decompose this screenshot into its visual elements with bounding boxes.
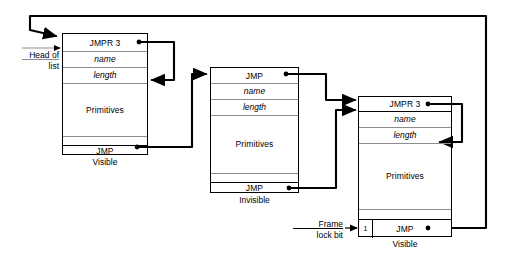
frame-2-jmp-cell[interactable]: JMP [211, 182, 298, 194]
frame-1-primitives-label: Primitives [86, 105, 124, 115]
frame-3[interactable]: JMPR 3 name length Primitives JMP 1 [358, 96, 452, 237]
frame-3-spacer-cell [359, 209, 451, 219]
frame-2-name-label: name [244, 86, 265, 96]
frame-3-primitives-label: Primitives [386, 171, 424, 181]
frame-2-length-cell[interactable]: length [211, 99, 298, 115]
frame-2-jmp-label: JMP [246, 183, 263, 193]
frame-lock-underline [293, 228, 343, 229]
frame-3-length-cell[interactable]: length [359, 127, 451, 143]
frame-3-caption: Visible [358, 239, 452, 249]
frame-3-length-label: length [393, 130, 416, 140]
head-of-list-label-line2: list [4, 61, 59, 71]
frame-3-name-cell[interactable]: name [359, 111, 451, 127]
frame-lock-bit-cell[interactable]: 1 [359, 219, 373, 238]
frame-1-name-label: name [94, 54, 115, 64]
frame-lock-label-line2: lock bit [290, 230, 343, 240]
frame-2[interactable]: JMP name length Primitives JMP [210, 67, 299, 193]
frame-3-jmp-label: JMP [396, 224, 413, 234]
frame-1-name-cell[interactable]: name [63, 51, 147, 67]
frame-1-spacer-cell [63, 136, 147, 145]
frame-2-name-cell[interactable]: name [211, 83, 298, 99]
frame-1[interactable]: JMPR 3 name length Primitives JMP [62, 33, 148, 155]
frame-3-name-label: name [394, 114, 415, 124]
frame-1-length-label: length [93, 70, 116, 80]
frame-3-jmpr-label: JMPR 3 [390, 99, 421, 109]
frame-1-length-cell[interactable]: length [63, 67, 147, 83]
frame-2-primitives-label: Primitives [236, 139, 274, 149]
frame-2-jmp-top-cell[interactable]: JMP [211, 68, 298, 83]
frame-2-caption: Invisible [210, 195, 299, 205]
frame-1-jmpr-cell[interactable]: JMPR 3 [63, 34, 147, 51]
frame-lock-bit-value: 1 [364, 225, 368, 232]
frame-2-length-label: length [243, 102, 266, 112]
frame-1-primitives-cell[interactable]: Primitives [63, 83, 147, 136]
frame-1-jmp-label: JMP [96, 146, 113, 156]
head-of-list-underline [22, 59, 59, 60]
diagram-canvas: JMPR 3 name length Primitives JMP Visibl… [0, 0, 510, 261]
frame-2-spacer-cell [211, 173, 298, 182]
frame-2-primitives-cell[interactable]: Primitives [211, 115, 298, 173]
frame-1-caption: Visible [62, 157, 148, 167]
frame-1-jmp-cell[interactable]: JMP [63, 145, 147, 156]
frame-1-jmpr-label: JMPR 3 [90, 38, 121, 48]
frame-3-primitives-cell[interactable]: Primitives [359, 143, 451, 209]
frame-3-jmpr-cell[interactable]: JMPR 3 [359, 97, 451, 111]
frame-2-jmp-top-label: JMP [246, 71, 263, 81]
